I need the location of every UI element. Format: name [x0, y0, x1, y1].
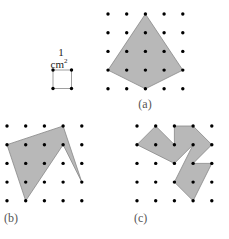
grid-dot	[61, 180, 64, 183]
grid-dot	[144, 31, 147, 34]
grid-dot	[106, 87, 109, 90]
grid-dot	[173, 180, 176, 183]
grid-dot	[191, 180, 194, 183]
grid-dot	[61, 199, 64, 202]
grid-dot	[191, 162, 194, 165]
grid-dot	[154, 180, 157, 183]
figure-b	[5, 124, 83, 202]
grid-dot	[154, 124, 157, 127]
grid-dot	[135, 124, 138, 127]
grid-dot	[162, 50, 165, 53]
grid-dot	[135, 199, 138, 202]
unit-number: 1	[58, 46, 64, 58]
grid-dot	[191, 199, 194, 202]
grid-dot	[154, 199, 157, 202]
grid-dot	[210, 124, 213, 127]
grid-dot	[80, 199, 83, 202]
grid-dot	[125, 31, 128, 34]
grid-dot	[125, 87, 128, 90]
grid-dot	[43, 199, 46, 202]
grid-dot	[162, 87, 165, 90]
grid-dot	[154, 143, 157, 146]
geoboard-diagram: 1 cm2 (a) (b) (c)	[0, 0, 229, 239]
unit-square-legend: 1 cm2	[51, 46, 74, 90]
grid-dot	[24, 180, 27, 183]
grid-dot	[43, 180, 46, 183]
grid-dot	[191, 143, 194, 146]
grid-dot	[210, 199, 213, 202]
grid-dot	[144, 12, 147, 15]
grid-dot	[43, 143, 46, 146]
figure-c-label: (c)	[134, 211, 147, 225]
grid-dot	[144, 50, 147, 53]
grid-dot	[51, 68, 54, 71]
grid-dot	[162, 31, 165, 34]
unit-square	[53, 70, 72, 89]
grid-dot	[106, 12, 109, 15]
grid-dot	[144, 87, 147, 90]
grid-dot	[181, 87, 184, 90]
grid-dot	[80, 143, 83, 146]
figure-b-label: (b)	[4, 211, 18, 225]
grid-dot	[24, 199, 27, 202]
grid-dot	[135, 143, 138, 146]
grid-dot	[43, 124, 46, 127]
grid-dot	[5, 143, 8, 146]
grid-dot	[181, 68, 184, 71]
grid-dot	[173, 162, 176, 165]
grid-dot	[70, 68, 73, 71]
figure-a	[106, 12, 184, 90]
grid-dot	[61, 124, 64, 127]
grid-dot	[181, 12, 184, 15]
grid-dot	[5, 124, 8, 127]
grid-dot	[5, 180, 8, 183]
grid-dot	[210, 162, 213, 165]
grid-dot	[125, 68, 128, 71]
grid-dot	[70, 87, 73, 90]
grid-dot	[106, 31, 109, 34]
grid-dot	[162, 12, 165, 15]
grid-dot	[181, 31, 184, 34]
grid-dot	[24, 162, 27, 165]
grid-dot	[144, 68, 147, 71]
figure-a-label: (a)	[138, 97, 151, 111]
grid-dot	[106, 50, 109, 53]
figure-c	[135, 124, 213, 202]
grid-dot	[80, 180, 83, 183]
grid-dot	[24, 124, 27, 127]
grid-dot	[210, 180, 213, 183]
grid-dot	[5, 162, 8, 165]
unit-label: cm2	[51, 57, 68, 70]
grid-dot	[210, 143, 213, 146]
grid-dot	[5, 199, 8, 202]
grid-dot	[51, 87, 54, 90]
grid-dot	[135, 180, 138, 183]
grid-dot	[154, 162, 157, 165]
grid-dot	[43, 162, 46, 165]
grid-dot	[24, 143, 27, 146]
grid-dot	[173, 143, 176, 146]
grid-dot	[181, 50, 184, 53]
grid-dot	[106, 68, 109, 71]
grid-dot	[61, 143, 64, 146]
grid-dot	[80, 124, 83, 127]
grid-dot	[61, 162, 64, 165]
grid-dot	[125, 12, 128, 15]
grid-dot	[162, 68, 165, 71]
grid-dot	[173, 124, 176, 127]
grid-dot	[80, 162, 83, 165]
grid-dot	[135, 162, 138, 165]
grid-dot	[173, 199, 176, 202]
grid-dot	[125, 50, 128, 53]
grid-dot	[191, 124, 194, 127]
